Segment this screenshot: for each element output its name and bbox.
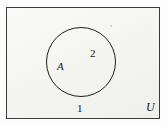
region-1-label: 1: [77, 103, 83, 114]
set-a-label: A: [57, 61, 64, 72]
scan-artifact-speck: [110, 25, 112, 27]
region-2-label: 2: [90, 48, 96, 59]
universal-set-label: U: [146, 101, 155, 113]
venn-diagram-figure: A 2 1 U: [0, 0, 167, 126]
